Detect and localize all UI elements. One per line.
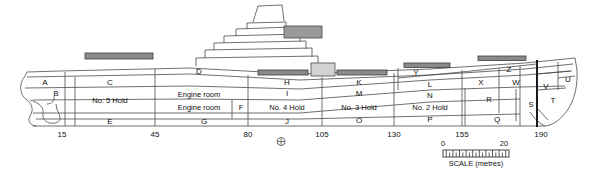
deck-compartment-label: W	[512, 79, 520, 87]
hold-compartment-label: No. 2 Hold	[412, 104, 447, 112]
second-deck-compartment-label: I	[286, 90, 288, 98]
scale-caption: SCALE (metres)	[449, 160, 504, 168]
hold-compartment-label: S	[528, 101, 533, 109]
deck-compartment-label: Y	[413, 69, 418, 77]
hatch-cover-bar-no4	[258, 70, 308, 75]
deck-compartment-label: K	[356, 79, 361, 87]
tanktop-compartment-label: E	[107, 118, 112, 126]
ship-profile-drawing	[0, 0, 596, 179]
hatch-cover-bar-no2	[404, 63, 450, 68]
tanktop-compartment-label: Q	[494, 116, 500, 124]
hold-compartment-label: No. 3 Hold	[341, 104, 376, 112]
rudder-aperture-outline	[30, 100, 60, 123]
tanktop-compartment-label: P	[427, 116, 432, 124]
midship-symbol: ⨁	[277, 137, 286, 145]
station-tick-label: 130	[387, 131, 400, 139]
second-deck-compartment-label: M	[356, 90, 363, 98]
scale-start-label: 0	[441, 140, 445, 148]
superstructure-grey-block	[284, 26, 322, 38]
hold-compartment-label: Engine room	[178, 91, 221, 99]
hatch-cover-bar-no3	[337, 70, 387, 75]
deck-compartment-label: Z	[507, 66, 512, 74]
superstructure-tier-1	[196, 56, 318, 68]
deck-compartment-label: V	[543, 83, 548, 91]
T-lower-line	[537, 108, 548, 120]
scale-end-label: 20	[500, 140, 508, 148]
station-tick-label: 15	[58, 131, 67, 139]
deck-compartment-label: C	[107, 79, 113, 87]
tanktop-compartment-label: O	[356, 117, 362, 125]
ship-profile-diagram: ACDHKYLZXWVU BIMNT No. 5 HoldEngine room…	[0, 0, 596, 179]
deck-compartment-label: L	[428, 81, 432, 89]
hold-compartment-label: No. 5 Hold	[92, 97, 127, 105]
funnel	[253, 5, 284, 22]
deck-compartment-label: D	[196, 68, 202, 76]
second-deck-compartment-label: B	[53, 90, 58, 98]
deck-crane-house	[311, 63, 335, 76]
deck-compartment-label: A	[42, 79, 47, 87]
hold-compartment-label: No. 4 Hold	[269, 104, 304, 112]
hatch-cover-bar-aft	[85, 53, 153, 59]
bow-stem-profile	[545, 58, 577, 126]
second-deck-compartment-label: T	[551, 97, 556, 105]
station-tick-label: 155	[455, 131, 468, 139]
second-deck-compartment-label: N	[427, 92, 433, 100]
tanktop-compartment-label: J	[285, 118, 289, 126]
deck-compartment-label: X	[478, 79, 483, 87]
hold-compartment-label: F	[239, 104, 244, 112]
hold-compartment-label: R	[486, 96, 491, 104]
hatch-cover-bar-forward	[478, 56, 526, 61]
station-tick-label: 45	[151, 131, 160, 139]
deck-compartment-label: U	[565, 76, 571, 84]
station-tick-label: 105	[315, 131, 328, 139]
forward-second-deck	[537, 88, 566, 90]
forecastle-deck-line	[537, 71, 570, 74]
station-tick-label: 80	[244, 131, 253, 139]
tanktop-compartment-label: G	[201, 118, 207, 126]
deck-line-Y	[398, 72, 462, 78]
hold-compartment-label: Engine room	[178, 104, 221, 112]
station-tick-label: 190	[534, 131, 547, 139]
scale-bar	[443, 150, 509, 157]
deck-compartment-label: H	[284, 79, 290, 87]
